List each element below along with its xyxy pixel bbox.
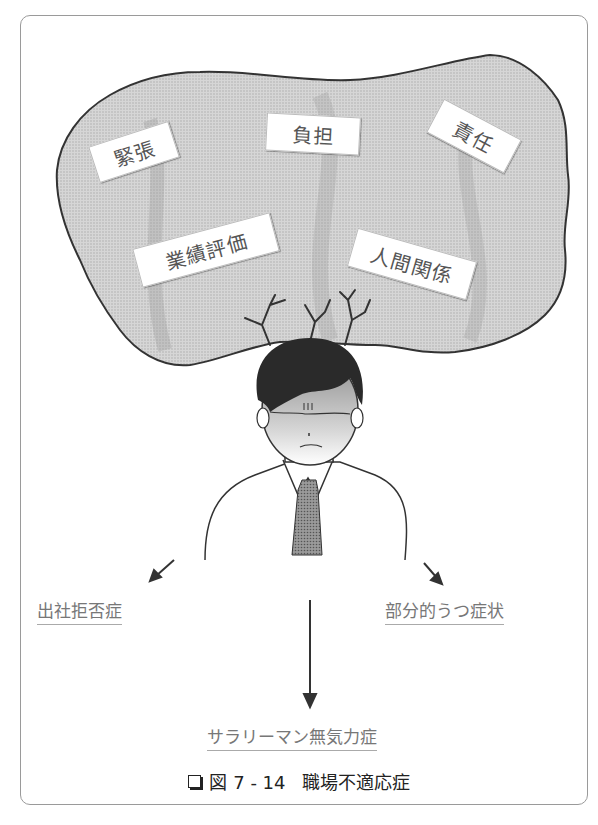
stressor-label: 緊張 bbox=[110, 132, 159, 173]
figure-caption: 図 7 - 14職場不適応症 bbox=[0, 768, 598, 794]
outcome-center: サラリーマン無気力症 bbox=[207, 723, 377, 751]
box-icon bbox=[188, 775, 201, 788]
figure-title: 職場不適応症 bbox=[302, 772, 410, 793]
outcome-left: 出社拒否症 bbox=[37, 597, 122, 625]
figure-number: 図 7 - 14 bbox=[209, 772, 285, 793]
stressor-tag-burden: 負担 bbox=[265, 113, 361, 156]
stressor-label: 負担 bbox=[291, 118, 334, 149]
stressed-worker-figure bbox=[205, 338, 407, 560]
outcome-arrows bbox=[150, 560, 442, 707]
outcome-right: 部分的うつ症状 bbox=[385, 597, 504, 625]
